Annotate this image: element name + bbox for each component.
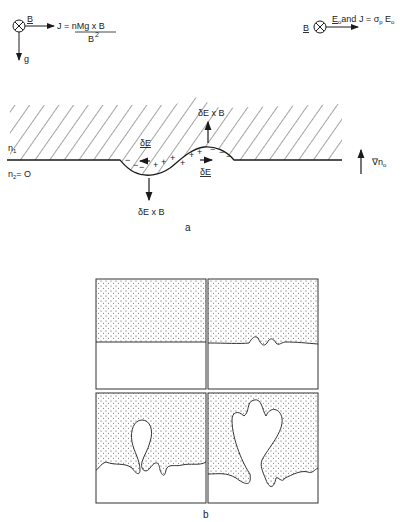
svg-text:+: + bbox=[170, 153, 175, 163]
svg-text:−: − bbox=[210, 144, 215, 154]
part-b: b bbox=[96, 279, 318, 520]
de-right-label: δE bbox=[200, 167, 211, 177]
svg-text:−: − bbox=[139, 162, 144, 172]
panel-b2 bbox=[208, 279, 318, 389]
current-formula-denominator: B bbox=[88, 34, 94, 44]
svg-text:−: − bbox=[219, 147, 224, 157]
svg-text:+: + bbox=[161, 157, 166, 167]
caption-a: a bbox=[185, 222, 191, 233]
svg-text:−: − bbox=[125, 155, 130, 165]
b-label: B bbox=[27, 14, 33, 24]
de-left-label: δE bbox=[140, 138, 151, 148]
gradient-label: ∇no bbox=[371, 157, 387, 168]
part-a: B J = nMg x B B 2 g B Eoand J = σp Eo − bbox=[7, 14, 395, 233]
svg-text:−: − bbox=[226, 151, 231, 161]
svg-text:B: B bbox=[303, 23, 309, 33]
caption-b: b bbox=[203, 509, 209, 520]
panel-b3 bbox=[96, 393, 206, 503]
current-formula-numerator: J = nMg x B bbox=[57, 21, 105, 31]
svg-text:2: 2 bbox=[95, 31, 99, 38]
legend-left: B J = nMg x B B 2 g bbox=[13, 14, 116, 64]
panel-b1 bbox=[96, 279, 206, 389]
panel-b4 bbox=[208, 393, 318, 503]
figure-canvas: B J = nMg x B B 2 g B Eoand J = σp Eo − bbox=[0, 0, 412, 522]
legend-right: B Eoand J = σp Eo bbox=[303, 14, 395, 33]
svg-text:+: + bbox=[180, 158, 185, 168]
svg-text:+: + bbox=[153, 160, 158, 170]
svg-text:+: + bbox=[197, 147, 202, 157]
drift-down-label: δE x B bbox=[138, 207, 165, 217]
gravity-label: g bbox=[24, 54, 29, 64]
n2-label: n2= O bbox=[8, 169, 31, 180]
drift-up-label: δE x B bbox=[198, 108, 225, 118]
e0-current-text: Eoand J = σp Eo bbox=[332, 14, 395, 25]
svg-text:+: + bbox=[189, 150, 194, 160]
svg-text:−: − bbox=[133, 160, 138, 170]
